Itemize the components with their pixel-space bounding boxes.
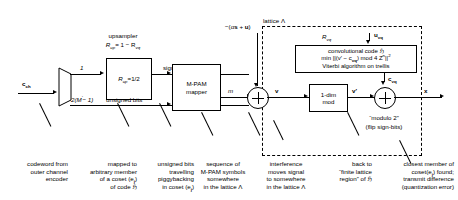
output-arrow bbox=[440, 94, 444, 98]
interference-caption: interference moves signal to somewhere i… bbox=[254, 160, 318, 190]
codeword-caption: codeword from outer channel encoder bbox=[6, 160, 68, 183]
input-codeword-label: cch bbox=[22, 80, 31, 87]
flip-sign-bits-label: (flip sign-bits) bbox=[355, 123, 413, 130]
c-vq-label: cvq bbox=[388, 75, 397, 82]
mpam-mapper-line1: M-PAM bbox=[186, 80, 206, 87]
upsampler-title: upsampler bbox=[90, 32, 156, 39]
m-signal-label: m bbox=[228, 87, 233, 94]
output-x-label: x bbox=[424, 87, 427, 94]
splitter-bottom-arrow bbox=[167, 102, 171, 106]
leader-line-mpam-sequence bbox=[201, 112, 213, 136]
coset-caption: mapped to arbitrary member of a coset (e… bbox=[72, 160, 137, 190]
modulo-two-label: “modulo 2” bbox=[355, 114, 413, 121]
splitter-top-wire bbox=[70, 74, 101, 75]
v-prime-signal-label: v′ bbox=[352, 87, 357, 94]
finite-lattice-caption: back to “finite lattice region” of ℌ bbox=[318, 160, 372, 183]
one-dim-mod-line2: mod bbox=[322, 98, 334, 105]
sign-bits-arrow bbox=[167, 71, 171, 75]
interference-wire bbox=[257, 33, 258, 86]
splitter-top-arrow bbox=[100, 71, 104, 75]
block-diagram-canvas: lattice Λ cch 1 2(M′− 1) upsampler Rup= … bbox=[0, 0, 458, 200]
modulo-two-adder[interactable] bbox=[374, 87, 396, 109]
unsigned-bits-label: unsigned bits bbox=[106, 96, 142, 103]
r-vq-label: Rvq bbox=[322, 33, 331, 40]
unsigned-bits-caption: unsigned bits travelling piggybacking in… bbox=[138, 160, 194, 190]
top-branch-count-label: 1 bbox=[80, 64, 83, 71]
upsampler-rate-formula: Rup= 1 − Rvq bbox=[90, 41, 156, 48]
bottom-branch-count-label: 2(M′− 1) bbox=[71, 96, 93, 103]
leader-line-coset bbox=[117, 103, 129, 127]
interference-label: −(αs + u) bbox=[225, 23, 251, 30]
u-vq-arrow bbox=[366, 40, 370, 44]
bit-splitter bbox=[58, 67, 72, 107]
mpam-sequence-caption: sequence of M-PAM symbols somewhere in t… bbox=[192, 160, 254, 190]
input-wire bbox=[18, 93, 54, 94]
adder-to-mod-arrow bbox=[304, 94, 308, 98]
u-vq-label: uvq bbox=[374, 31, 383, 38]
lattice-region-label: lattice Λ bbox=[263, 17, 285, 24]
leader-line-interference bbox=[248, 112, 260, 136]
output-wire bbox=[394, 97, 442, 98]
conv-code-line2: min ||(v′ − cvq) mod 4 Zn||2 bbox=[321, 55, 390, 62]
input-wire-arrow bbox=[53, 90, 57, 94]
adder-to-mod-wire bbox=[267, 97, 309, 98]
interference-adder[interactable] bbox=[247, 87, 269, 109]
v-signal-label: v bbox=[275, 87, 278, 94]
leader-line-codeword bbox=[39, 103, 51, 127]
c-vq-arrow bbox=[381, 81, 385, 85]
mpam-mapper-line2: mapper bbox=[186, 88, 207, 95]
one-dim-mod-line1: 1-dim bbox=[321, 91, 336, 98]
upsampler-block-label: Rup=1/2 bbox=[118, 75, 140, 82]
conv-code-line3: Viterbi algorithm on trellis bbox=[322, 63, 389, 70]
one-dim-mod-block[interactable]: 1-dim mod bbox=[309, 84, 348, 112]
closest-member-caption: closest member of coset(ej) found; trans… bbox=[372, 160, 454, 190]
convolutional-code-block[interactable]: convolutional code ℌ min ||(v′ − cvq) mo… bbox=[295, 45, 417, 73]
leader-line-unsigned bbox=[159, 103, 171, 127]
upsampler-block[interactable]: Rup=1/2 bbox=[106, 58, 152, 100]
mpam-mapper-block[interactable]: M-PAM mapper bbox=[172, 64, 221, 111]
